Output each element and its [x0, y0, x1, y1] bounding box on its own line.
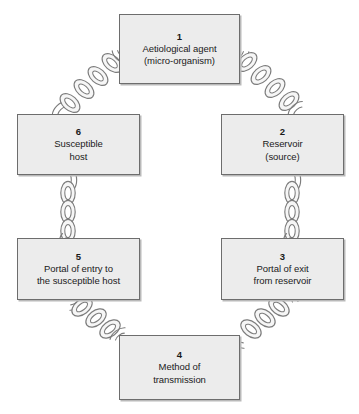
- node-reservoir: 2 Reservoir (source): [221, 114, 344, 175]
- chain-link-6-to-1: [50, 48, 129, 117]
- node-label: Aetiological agent (micro-organism): [139, 43, 219, 68]
- node-label: Susceptible host: [51, 138, 106, 163]
- node-aetiological-agent: 1 Aetiological agent (micro-organism): [119, 14, 240, 84]
- node-susceptible-host: 6 Susceptible host: [17, 114, 140, 175]
- node-portal-of-exit: 3 Portal of exit from reservoir: [221, 238, 344, 300]
- node-method-of-transmission: 4 Method of transmission: [119, 335, 240, 400]
- node-number: 2: [280, 126, 285, 138]
- node-number: 1: [177, 31, 182, 43]
- node-number: 3: [280, 251, 285, 263]
- node-number: 4: [177, 349, 182, 361]
- chain-link-1-to-2: [232, 49, 305, 117]
- chain-of-infection-diagram: 1 Aetiological agent (micro-organism) 2 …: [0, 0, 359, 414]
- node-label: Reservoir (source): [259, 138, 305, 163]
- node-number: 6: [76, 126, 81, 138]
- node-number: 5: [76, 251, 81, 263]
- node-portal-of-entry: 5 Portal of entry to the susceptible hos…: [17, 238, 140, 300]
- node-label: Portal of exit from reservoir: [251, 263, 315, 288]
- node-label: Method of transmission: [150, 361, 209, 386]
- node-label: Portal of entry to the susceptible host: [34, 263, 123, 288]
